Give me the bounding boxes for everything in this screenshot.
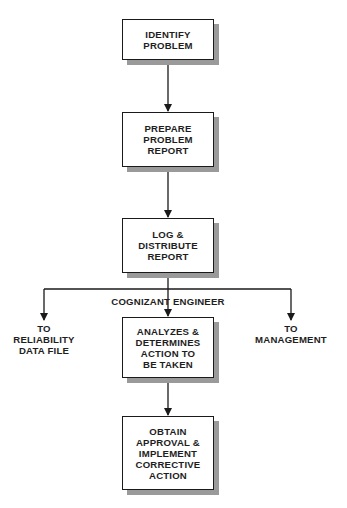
output-text-line: MANAGEMENT — [251, 334, 331, 345]
output-reliability-data-file: TO RELIABILITY DATA FILE — [4, 323, 84, 356]
box-text-line: DISTRIBUTE — [138, 240, 198, 251]
box-text-line: ANALYZES & — [137, 326, 199, 337]
box-text-line: BE TAKEN — [143, 359, 193, 370]
output-text-line: TO — [4, 323, 84, 334]
output-management: TO MANAGEMENT — [251, 323, 331, 345]
box-text-line: PROBLEM — [143, 40, 192, 51]
box-text-line: IMPLEMENT — [139, 448, 197, 459]
box-text-line: REPORT — [147, 251, 188, 262]
box-analyzes-determines-action: ANALYZES & DETERMINES ACTION TO BE TAKEN — [122, 317, 214, 378]
box-text-line: APPROVAL & — [136, 437, 200, 448]
box-text-line: PREPARE — [144, 123, 191, 134]
flowchart: IDENTIFY PROBLEM PREPARE PROBLEM REPORT … — [0, 0, 347, 508]
box-text-line: ACTION — [149, 470, 187, 481]
box-identify-problem: IDENTIFY PROBLEM — [122, 19, 214, 60]
output-text-line: RELIABILITY — [4, 334, 84, 345]
box-text-line: REPORT — [147, 145, 188, 156]
box-log-distribute-report: LOG & DISTRIBUTE REPORT — [122, 218, 214, 273]
output-text-line: TO — [251, 323, 331, 334]
box-text-line: IDENTIFY — [145, 29, 190, 40]
output-text-line: DATA FILE — [4, 345, 84, 356]
box-text-line: DETERMINES — [136, 337, 201, 348]
box-prepare-problem-report: PREPARE PROBLEM REPORT — [122, 112, 214, 167]
box-text-line: PROBLEM — [143, 134, 192, 145]
box-obtain-approval-implement: OBTAIN APPROVAL & IMPLEMENT CORRECTIVE A… — [122, 416, 214, 490]
box-text-line: OBTAIN — [149, 426, 186, 437]
box-text-line: CORRECTIVE — [136, 459, 201, 470]
box-text-line: LOG & — [152, 229, 183, 240]
branch-label-cognizant-engineer: COGNIZANT ENGINEER — [108, 296, 228, 307]
box-text-line: ACTION TO — [141, 348, 195, 359]
